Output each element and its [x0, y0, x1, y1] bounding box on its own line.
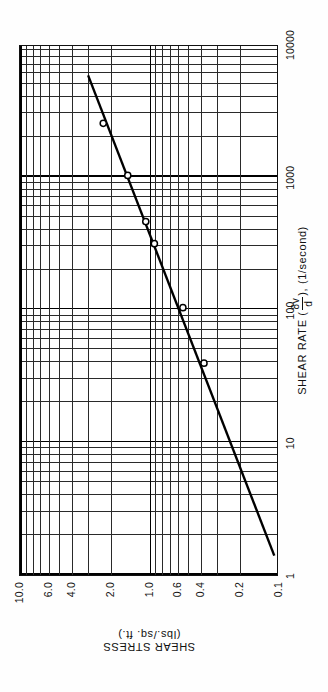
data-point-marker	[180, 305, 186, 311]
y-axis-title-wrap: SHEAR STRESS (lbs./sq. ft.)	[19, 586, 278, 692]
data-point-marker	[151, 241, 157, 247]
data-point-marker	[125, 172, 131, 178]
data-point-marker	[201, 360, 207, 366]
y-axis-title: SHEAR STRESS (lbs./sq. ft.)	[102, 629, 194, 653]
plot-area	[19, 45, 278, 576]
shear-rate-fraction: 8vd	[291, 297, 314, 311]
x-axis-title-suffix: ), (1/second)	[296, 226, 308, 296]
fraction-denominator: d	[303, 299, 314, 307]
rotated-figure: 110100100010000 10.06.04.02.01.00.60.40.…	[0, 0, 328, 692]
x-axis-title-prefix: SHEAR RATE (	[296, 311, 308, 394]
data-point-marker	[100, 120, 106, 126]
figure-page: 110100100010000 10.06.04.02.01.00.60.40.…	[0, 0, 328, 692]
fit-line	[88, 75, 274, 555]
x-axis-title: SHEAR RATE (8vd), (1/second)	[292, 45, 315, 576]
data-layer	[20, 46, 277, 575]
data-markers	[100, 120, 207, 366]
data-point-marker	[143, 219, 149, 225]
y-axis-title-line2: (lbs./sq. ft.)	[102, 629, 194, 641]
fraction-numerator: 8v	[291, 297, 303, 311]
y-axis-title-line1: SHEAR STRESS	[102, 641, 194, 653]
